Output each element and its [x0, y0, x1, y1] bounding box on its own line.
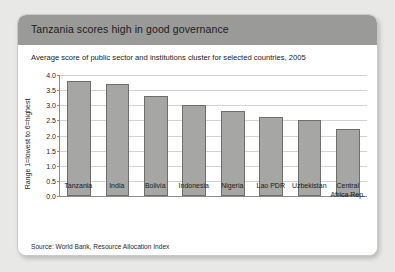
x-tick-label: India [98, 182, 137, 191]
bar-chart: Range 1=lowest to 6=highest 0.00.51.01.5… [31, 69, 367, 219]
y-tick-label: 2.5 [46, 117, 56, 124]
x-tick-label: Nigeria [213, 182, 252, 191]
y-tick-label: 3.5 [46, 87, 56, 94]
y-tick-label: 0.0 [46, 193, 56, 200]
y-tick-label: 1.5 [46, 147, 56, 154]
y-tick-label: 2.0 [46, 132, 56, 139]
y-tick-label: 1.0 [46, 162, 56, 169]
page-background: Tanzania scores high in good governance … [0, 0, 395, 272]
x-axis-labels: TanzaniaIndiaBoliviaIndonesiaNigeriaLao … [59, 179, 367, 219]
x-tick-label: Central Africa Rep. [329, 182, 368, 199]
card-body: Average score of public sector and insti… [18, 45, 377, 256]
x-tick-label: Bolivia [136, 182, 175, 191]
x-tick-label: Uzbekistan [290, 182, 329, 191]
x-tick-label: Lao PDR [252, 182, 291, 191]
source-note: Source: World Bank, Resource Allocation … [31, 243, 169, 250]
y-tick-label: 4.0 [46, 72, 56, 79]
x-tick-label: Indonesia [175, 182, 214, 191]
page-title: Tanzania scores high in good governance [31, 23, 229, 35]
y-tick-label: 0.5 [46, 177, 56, 184]
card-header: Tanzania scores high in good governance [18, 15, 377, 45]
y-tick-label: 3.0 [46, 102, 56, 109]
y-axis-title: Range 1=lowest to 6=highest [24, 99, 31, 190]
chart-card: Tanzania scores high in good governance … [17, 14, 378, 256]
x-tick-label: Tanzania [59, 182, 98, 191]
chart-subtitle: Average score of public sector and insti… [31, 53, 306, 62]
bar-series [60, 75, 367, 196]
